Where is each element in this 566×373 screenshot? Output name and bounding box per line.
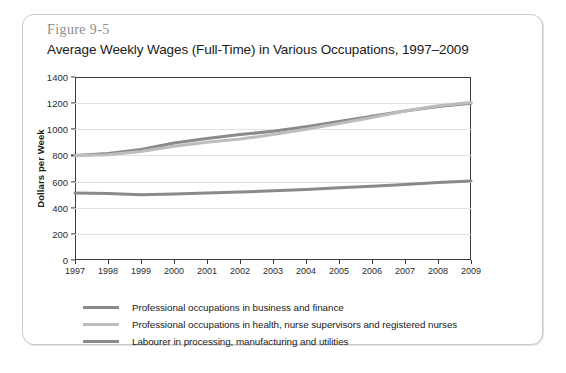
y-tick-label: 0	[63, 255, 68, 266]
x-tick-mark	[405, 260, 406, 264]
x-tick-mark	[372, 260, 373, 264]
legend-swatch-icon	[83, 306, 119, 309]
y-tick-label: 400	[52, 202, 68, 213]
series-line-3	[75, 181, 471, 195]
x-tick-mark	[339, 260, 340, 264]
legend-swatch-icon	[83, 340, 119, 343]
x-tick-mark	[75, 260, 76, 264]
x-tick-label: 1997	[65, 266, 85, 276]
x-tick-mark	[207, 260, 208, 264]
x-tick-mark	[174, 260, 175, 264]
y-tick-label: 200	[52, 228, 68, 239]
x-tick-label: 1999	[131, 266, 151, 276]
figure-card: Figure 9-5 Average Weekly Wages (Full-Ti…	[22, 14, 543, 345]
x-tick-label: 2004	[296, 266, 316, 276]
x-tick-label: 1998	[98, 266, 118, 276]
legend-item: Professional occupations in business and…	[83, 299, 457, 316]
y-tick-label: 1400	[47, 72, 68, 83]
figure-title: Average Weekly Wages (Full-Time) in Vari…	[47, 42, 469, 57]
x-tick-label: 2006	[362, 266, 382, 276]
figure-number-label: Figure 9-5	[47, 22, 110, 38]
y-tick-label: 800	[52, 150, 68, 161]
y-tick-label: 600	[52, 176, 68, 187]
x-tick-label: 2005	[329, 266, 349, 276]
series-line-2	[75, 102, 471, 155]
x-tick-label: 2007	[395, 266, 415, 276]
chart-legend: Professional occupations in business and…	[83, 299, 457, 350]
x-tick-mark	[273, 260, 274, 264]
legend-item: Labourer in processing, manufacturing an…	[83, 333, 457, 350]
legend-label: Labourer in processing, manufacturing an…	[132, 336, 348, 347]
series-lines	[75, 77, 471, 260]
x-tick-label: 2001	[197, 266, 217, 276]
x-tick-label: 2002	[230, 266, 250, 276]
y-tick-label: 1000	[47, 124, 68, 135]
x-tick-mark	[240, 260, 241, 264]
legend-label: Professional occupations in business and…	[132, 302, 344, 313]
x-tick-label: 2009	[461, 266, 481, 276]
legend-swatch-icon	[83, 323, 119, 326]
x-tick-label: 2000	[164, 266, 184, 276]
x-tick-mark	[471, 260, 472, 264]
legend-item: Professional occupations in health, nurs…	[83, 316, 457, 333]
y-tick-label: 1200	[47, 98, 68, 109]
x-tick-mark	[438, 260, 439, 264]
x-tick-mark	[141, 260, 142, 264]
x-tick-mark	[108, 260, 109, 264]
legend-label: Professional occupations in health, nurs…	[132, 319, 457, 330]
x-tick-label: 2008	[428, 266, 448, 276]
x-tick-label: 2003	[263, 266, 283, 276]
x-tick-mark	[306, 260, 307, 264]
chart-plot-area: 0200400600800100012001400 19971998199920…	[75, 77, 471, 260]
